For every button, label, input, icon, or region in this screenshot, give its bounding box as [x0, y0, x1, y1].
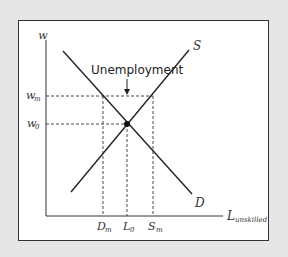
tick-wm: w m — [26, 89, 41, 103]
demand-label: D — [194, 196, 205, 210]
x-axis-label-sub: unskilled — [235, 216, 268, 224]
tick-l0-sub: 0 — [130, 226, 135, 234]
tick-dm: D m — [96, 220, 112, 234]
y-axis-label: w — [38, 29, 48, 42]
tick-l0: L 0 — [122, 220, 135, 234]
arrow-head-icon — [124, 89, 130, 95]
tick-sm-main: S — [148, 220, 156, 233]
tick-sm: S m — [148, 220, 163, 234]
tick-sm-sub: m — [156, 226, 163, 234]
x-axis-label-main: L — [226, 209, 235, 223]
tick-w0: w 0 — [27, 117, 40, 131]
unemployment-label: Unemployment — [91, 63, 184, 77]
equilibrium-point — [124, 121, 130, 127]
tick-wm-sub: m — [34, 95, 41, 103]
tick-dm-sub: m — [105, 226, 112, 234]
tick-w0-sub: 0 — [35, 123, 40, 131]
x-axis-label: L unskilled — [226, 209, 268, 224]
supply-label: S — [193, 39, 201, 53]
labor-market-diagram: Unemployment S D w L unskilled w m w 0 D… — [0, 0, 288, 257]
